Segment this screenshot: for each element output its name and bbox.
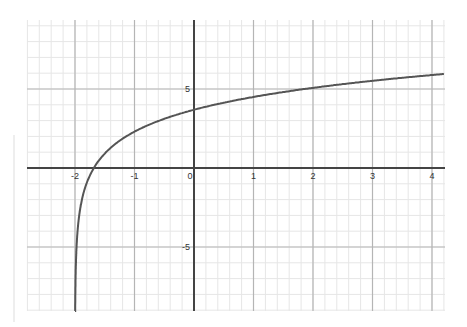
y-tick-label: -5 (182, 242, 190, 252)
x-tick-label: -1 (130, 171, 138, 181)
x-tick-label: 2 (310, 171, 315, 181)
major-grid (27, 20, 445, 311)
y-tick-label: 5 (185, 84, 190, 94)
x-tick-label: 1 (251, 171, 256, 181)
function-curve (75, 74, 444, 311)
x-tick-label: 0 (187, 171, 192, 181)
x-tick-label: 4 (429, 171, 434, 181)
axes (27, 20, 445, 311)
x-tick-label: -2 (71, 171, 79, 181)
function-graph: -2-1012345-5 (0, 0, 467, 327)
minor-grid (27, 20, 445, 311)
x-tick-label: 3 (370, 171, 375, 181)
